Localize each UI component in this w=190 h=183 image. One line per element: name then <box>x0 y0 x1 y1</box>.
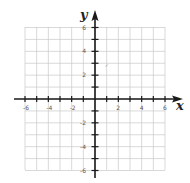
y-axis-label: y <box>79 7 89 22</box>
x-tick-label: -2 <box>70 104 76 111</box>
y-tick-label: -6 <box>80 167 86 174</box>
y-tick-label: 4 <box>82 47 86 54</box>
coordinate-plane: x y -6-4-2246 642-2-4-6 <box>0 0 190 183</box>
y-tick-label: -2 <box>80 119 86 126</box>
y-tick-label: 2 <box>82 71 86 78</box>
x-tick-label: 2 <box>116 104 120 111</box>
x-tick-label: 6 <box>163 104 167 111</box>
y-tick-label: -4 <box>80 143 86 150</box>
y-tick-label: 6 <box>82 24 86 31</box>
x-tick-label: 4 <box>140 104 144 111</box>
x-axis-label: x <box>175 98 184 113</box>
x-tick-label: -6 <box>23 104 29 111</box>
x-tick-label: -4 <box>46 104 52 111</box>
